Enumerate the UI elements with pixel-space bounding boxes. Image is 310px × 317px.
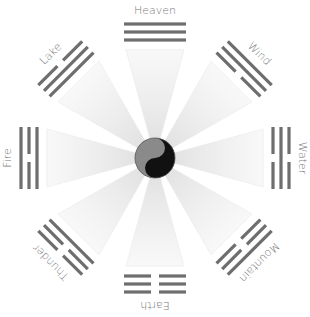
trigram-label: Thunder: [30, 241, 72, 283]
trigram-fire: Fire: [1, 127, 39, 189]
trigram-line-solid: [124, 22, 186, 25]
trigram-line-broken: [124, 282, 186, 285]
trigram-line-solid: [124, 30, 186, 33]
trigram-label: Heaven: [134, 4, 176, 17]
yin-yang-icon: [135, 138, 175, 178]
trigram-label: Mountain: [237, 240, 282, 285]
trigram-label: Earth: [140, 299, 170, 312]
trigram-label: Fire: [1, 148, 14, 168]
trigram-water: Water: [271, 127, 309, 189]
trigram-line-broken: [124, 290, 186, 293]
trigram-line-broken: [124, 274, 186, 277]
bagua-diagram: HeavenWindWaterMountainEarthThunderFireL…: [0, 0, 310, 317]
trigram-earth: Earth: [124, 274, 186, 312]
trigram-label: Water: [296, 142, 309, 175]
trigram-label: Lake: [37, 40, 64, 67]
trigram-line-broken: [27, 127, 30, 189]
trigram-line-broken: [287, 127, 290, 189]
trigram-line-solid: [19, 127, 22, 189]
bagua-svg: HeavenWindWaterMountainEarthThunderFireL…: [0, 0, 310, 317]
trigram-line-solid: [279, 127, 282, 189]
trigram-line-broken: [271, 127, 274, 189]
trigram-heaven: Heaven: [124, 4, 186, 42]
trigram-line-solid: [35, 127, 38, 189]
trigram-line-solid: [124, 38, 186, 41]
